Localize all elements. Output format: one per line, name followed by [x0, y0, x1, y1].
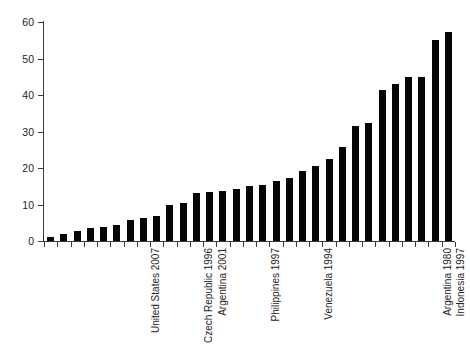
bar [60, 234, 67, 241]
x-axis-tick [150, 242, 151, 247]
x-axis-tick [110, 242, 111, 247]
bar [140, 218, 147, 241]
x-axis-category-label-text: Venezuela 1994 [324, 248, 334, 320]
x-axis-tick [163, 242, 164, 247]
bar [166, 205, 173, 242]
bar [352, 126, 359, 241]
y-axis-tick-label: 60 [0, 17, 34, 27]
bar [233, 189, 240, 241]
x-axis-category-label-text: Philippines 1997 [271, 248, 281, 321]
x-axis-category-label-text: Indonesia 1997 [456, 248, 466, 316]
y-axis-tick-label: 50 [0, 54, 34, 64]
x-axis-tick [177, 242, 178, 247]
bar [100, 227, 107, 241]
x-axis-tick [124, 242, 125, 247]
bar [193, 193, 200, 241]
x-axis-labels: United States 2007Czech Republic 1996Arg… [44, 248, 455, 349]
y-axis-tick-label: 40 [0, 90, 34, 100]
x-axis-category-label: Venezuela 1994 [320, 248, 330, 320]
x-axis-tick [362, 242, 363, 247]
bar [312, 166, 319, 241]
x-axis-tick [97, 242, 98, 247]
y-axis-tick-label: 30 [0, 127, 34, 137]
x-axis-tick [336, 242, 337, 247]
x-axis-tick [296, 242, 297, 247]
bar [445, 32, 452, 241]
y-axis-tick-label: 20 [0, 163, 34, 173]
bar [392, 84, 399, 241]
x-axis-category-label-text: Argentina 2001 [218, 248, 228, 316]
x-axis-tick [203, 242, 204, 247]
bar [299, 171, 306, 241]
x-axis-category-label: Philippines 1997 [267, 248, 277, 321]
bars-container [44, 22, 455, 241]
bar [87, 228, 94, 241]
x-axis-category-label-text: United States 2007 [151, 248, 161, 333]
bar [418, 77, 425, 241]
bar [153, 216, 160, 241]
x-axis-tick [216, 242, 217, 247]
bar [379, 90, 386, 241]
x-axis-tick [44, 242, 45, 247]
bar [286, 178, 293, 241]
x-axis-tick [322, 242, 323, 247]
bar [273, 181, 280, 241]
x-axis-tick [137, 242, 138, 247]
bar [246, 186, 253, 241]
bar [339, 147, 346, 241]
x-axis-tick [389, 242, 390, 247]
bar [432, 40, 439, 241]
x-axis-tick [402, 242, 403, 247]
x-axis-category-label-text: Czech Republic 1996 [204, 248, 214, 343]
x-axis-tick [375, 242, 376, 247]
x-axis-tick [256, 242, 257, 247]
bar [127, 220, 134, 241]
bar [365, 123, 372, 241]
y-axis-tick-label: 0 [0, 236, 34, 246]
bar-chart: 0102030405060 United States 2007Czech Re… [0, 0, 470, 349]
y-axis-tick-label: 10 [0, 200, 34, 210]
x-axis-tick [57, 242, 58, 247]
x-axis-category-label: Argentina 2001 [214, 248, 224, 316]
x-axis-tick [455, 242, 456, 247]
bar [259, 185, 266, 241]
bar [180, 203, 187, 241]
bar [47, 237, 54, 241]
x-axis-tick [230, 242, 231, 247]
x-axis-category-label: Indonesia 1997 [452, 248, 462, 316]
x-axis-tick [269, 242, 270, 247]
bar [219, 191, 226, 241]
bar [74, 231, 81, 241]
bar [113, 225, 120, 241]
bar [206, 192, 213, 241]
x-axis-tick [309, 242, 310, 247]
x-axis-tick [243, 242, 244, 247]
x-axis-tick [442, 242, 443, 247]
x-axis-tick [283, 242, 284, 247]
x-axis-category-label: Argentina 1980 [439, 248, 449, 316]
bar [405, 77, 412, 241]
x-axis-tick [349, 242, 350, 247]
x-axis-category-label: Czech Republic 1996 [200, 248, 210, 343]
x-axis-tick [190, 242, 191, 247]
x-axis-category-label: United States 2007 [147, 248, 157, 333]
x-axis-tick [71, 242, 72, 247]
bar [326, 159, 333, 241]
x-axis-tick [84, 242, 85, 247]
x-axis-tick [415, 242, 416, 247]
x-axis-tick [428, 242, 429, 247]
